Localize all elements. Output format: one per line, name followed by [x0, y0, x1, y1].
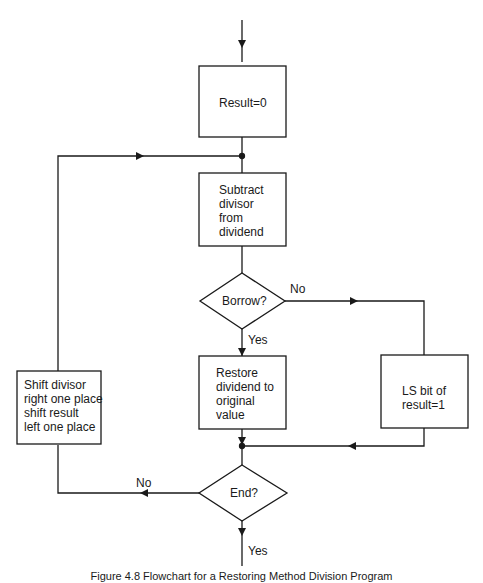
arrowhead-icon	[238, 40, 246, 48]
arrowhead-icon	[140, 489, 148, 497]
ls-bit-text: LS bit of result=1	[402, 384, 446, 412]
subtract-text: Subtract divisor from dividend	[219, 183, 264, 239]
end-text: End?	[230, 486, 258, 500]
shift-text: Shift divisor right one place shift resu…	[24, 378, 103, 434]
restore-text: Restore dividend to original value	[216, 366, 274, 422]
borrow-yes-label: Yes	[248, 333, 268, 347]
end-no-label: No	[136, 476, 151, 490]
borrow-no-label: No	[290, 282, 305, 296]
borrow-text: Borrow?	[222, 294, 267, 308]
arrowhead-icon	[348, 442, 356, 450]
result-init-text: Result=0	[219, 96, 267, 110]
arrowhead-icon	[136, 152, 144, 160]
arrowhead-icon	[238, 528, 246, 536]
figure-caption: Figure 4.8 Flowchart for a Restoring Met…	[0, 570, 483, 582]
arrowhead-icon	[350, 297, 358, 305]
end-yes-label: Yes	[248, 544, 268, 558]
arrowhead-icon	[238, 348, 246, 356]
